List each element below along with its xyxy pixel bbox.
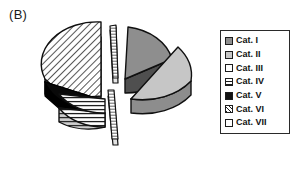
legend-swatch-icon — [225, 51, 233, 59]
legend-item-label: Cat. IV — [236, 77, 264, 86]
pie-slice-cat-vii[interactable] — [108, 90, 118, 145]
pie-chart — [0, 0, 215, 172]
legend: Cat. I Cat. II Cat. III Cat. IV Cat. V C… — [220, 30, 290, 134]
legend-swatch-icon — [225, 37, 233, 45]
legend-item-cat-v[interactable]: Cat. V — [225, 89, 286, 103]
legend-item-cat-i[interactable]: Cat. I — [225, 34, 286, 48]
legend-swatch-icon — [225, 64, 233, 72]
pie-slice-cat-iv[interactable] — [59, 94, 105, 129]
legend-item-label: Cat. V — [236, 91, 262, 100]
legend-item-cat-iv[interactable]: Cat. IV — [225, 75, 286, 89]
legend-item-label: Cat. VI — [236, 105, 264, 114]
legend-item-cat-ii[interactable]: Cat. II — [225, 48, 286, 62]
legend-item-label: Cat. I — [236, 36, 258, 45]
legend-item-label: Cat. VII — [236, 118, 267, 127]
legend-swatch-icon — [225, 78, 233, 86]
legend-item-cat-iii[interactable]: Cat. III — [225, 61, 286, 75]
legend-swatch-icon — [225, 119, 233, 127]
pie-slice-cat-iii[interactable] — [110, 25, 118, 83]
legend-swatch-icon — [225, 92, 233, 100]
legend-item-label: Cat. III — [236, 64, 263, 73]
pie-chart-svg — [0, 0, 215, 172]
legend-item-label: Cat. II — [236, 50, 261, 59]
legend-item-cat-vii[interactable]: Cat. VII — [225, 116, 286, 130]
legend-swatch-icon — [225, 105, 233, 113]
legend-item-cat-vi[interactable]: Cat. VI — [225, 102, 286, 116]
